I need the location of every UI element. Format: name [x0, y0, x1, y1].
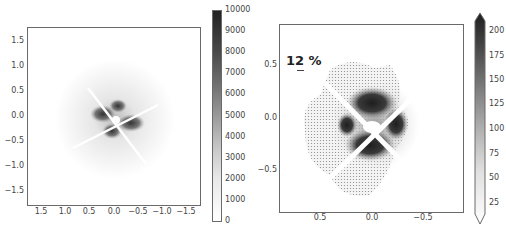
- right-xtick: 0.5: [305, 214, 335, 222]
- right-colorbar-tick: 150: [489, 76, 504, 84]
- left-colorbar-tick: 9000: [225, 27, 245, 35]
- left-colorbar-tick: 0: [225, 217, 230, 225]
- percentage-annotation: 12 %: [286, 53, 322, 68]
- left-colorbar-tick: 2000: [225, 175, 245, 183]
- left-ytick: 1.0: [0, 62, 24, 70]
- left-colorbar-tick: 1000: [225, 196, 245, 204]
- right-xtick: −0.5: [408, 214, 438, 222]
- right-colorbar-tick: 50: [489, 174, 499, 182]
- left-ytick: 0.0: [0, 112, 24, 120]
- left-colorbar-tick: 5000: [225, 112, 245, 120]
- left-colorbar-tick: 3000: [225, 154, 245, 162]
- left-colorbar-tick: 8000: [225, 48, 245, 56]
- left-colorbar-tick: 10000: [225, 6, 250, 14]
- right-colorbar-tick: 25: [489, 199, 499, 207]
- left-colorbar: [212, 10, 222, 222]
- right-colorbar-tick: 100: [489, 125, 504, 133]
- right-colorbar: [474, 12, 486, 226]
- left-colorbar-tick: 7000: [225, 69, 245, 77]
- right-ytick: 0.0: [253, 114, 277, 122]
- left-ytick: −1.5: [0, 187, 24, 195]
- left-colorbar-tick: 4000: [225, 133, 245, 141]
- right-colorbar-tick: 125: [489, 100, 504, 108]
- left-ytick: −1.0: [0, 162, 24, 170]
- left-heatmap: [28, 28, 200, 205]
- right-xtick: 0.0: [357, 214, 387, 222]
- left-xtick: −1.5: [171, 208, 201, 216]
- left-ytick: 1.5: [0, 37, 24, 45]
- left-colorbar-tick: 6000: [225, 90, 245, 98]
- left-ytick: −0.5: [0, 137, 24, 145]
- right-colorbar-tick: 175: [489, 52, 504, 60]
- right-colorbar-tick: 75: [489, 150, 499, 158]
- right-colorbar-tick: 200: [489, 27, 504, 35]
- left-ytick: 0.5: [0, 87, 24, 95]
- left-plot-area: [27, 27, 201, 206]
- annotation-underline: [297, 70, 304, 71]
- right-ytick: 0.5: [253, 61, 277, 69]
- right-ytick: −0.5: [253, 166, 277, 174]
